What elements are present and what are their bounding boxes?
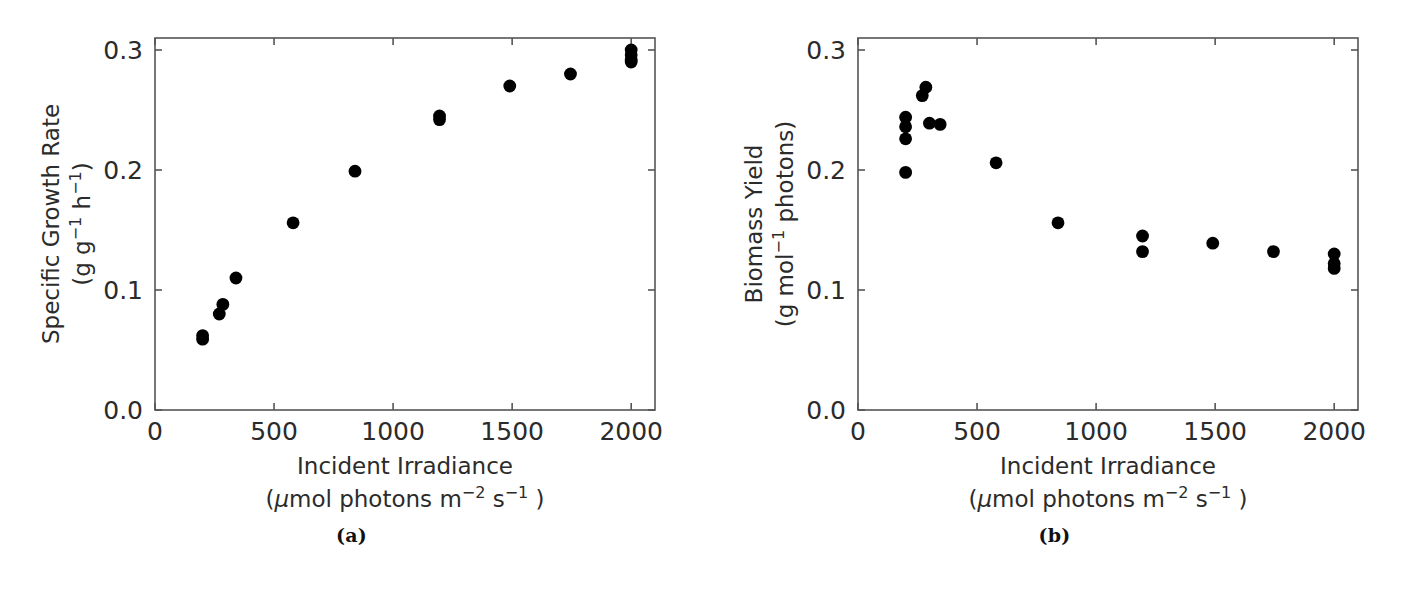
y-tick-label: 0.1 (806, 276, 846, 305)
panel-b: 05001000150020000.00.10.20.3Incident Irr… (703, 0, 1406, 594)
data-point (899, 166, 912, 179)
data-point (230, 272, 243, 285)
scatter-plot-b: 05001000150020000.00.10.20.3Incident Irr… (703, 0, 1406, 520)
x-axis-title-line1: Incident Irradiance (297, 453, 513, 479)
y-tick-label: 0.3 (806, 36, 846, 65)
data-point-group (899, 81, 1340, 275)
data-point (433, 113, 446, 126)
data-point (625, 56, 638, 69)
y-tick-label: 0.0 (806, 396, 846, 425)
data-point (1267, 245, 1280, 258)
scatter-plot-a: 05001000150020000.00.10.20.3Incident Irr… (0, 0, 703, 520)
subcaption-b: (b) (703, 524, 1406, 546)
data-point (1052, 216, 1065, 229)
panel-a: 05001000150020000.00.10.20.3Incident Irr… (0, 0, 703, 594)
x-tick-label: 1500 (1183, 417, 1247, 446)
y-axis-title-line2: (g g−1 h−1) (66, 162, 95, 286)
data-point (1206, 237, 1219, 250)
data-point (1136, 230, 1149, 243)
x-tick-label: 0 (147, 417, 163, 446)
data-point (564, 68, 577, 81)
x-tick-label: 1000 (1064, 417, 1128, 446)
data-point (934, 118, 947, 131)
y-tick-label: 0.3 (103, 36, 143, 65)
data-point (503, 80, 516, 93)
data-point-group (196, 44, 637, 346)
x-axis-title-line1: Incident Irradiance (1000, 453, 1216, 479)
data-point (1136, 245, 1149, 258)
data-point (1328, 262, 1341, 275)
data-point (196, 333, 209, 346)
x-tick-label: 0 (850, 417, 866, 446)
x-tick-label: 1500 (480, 417, 544, 446)
data-point (349, 165, 362, 178)
data-point (990, 156, 1003, 169)
data-point (899, 120, 912, 133)
x-tick-label: 2000 (599, 417, 663, 446)
y-tick-label: 0.2 (103, 156, 143, 185)
y-axis-title-line1: Biomass Yield (741, 145, 767, 304)
y-axis-title-line1: Specific Growth Rate (38, 104, 64, 344)
x-tick-label: 500 (250, 417, 298, 446)
subcaption-a: (a) (0, 524, 703, 546)
figure-two-panel-scatter: 05001000150020000.00.10.20.3Incident Irr… (0, 0, 1406, 594)
data-point (899, 132, 912, 145)
x-axis-title-line2: (μmol photons m−2 s−1 ) (265, 483, 544, 512)
y-tick-label: 0.1 (103, 276, 143, 305)
axes-frame (858, 38, 1358, 410)
x-axis-title-line2: (μmol photons m−2 s−1 ) (968, 483, 1247, 512)
y-tick-label: 0.2 (806, 156, 846, 185)
x-tick-label: 1000 (361, 417, 425, 446)
data-point (216, 298, 229, 311)
data-point (287, 216, 300, 229)
axes-frame (155, 38, 655, 410)
x-tick-label: 2000 (1302, 417, 1366, 446)
y-axis-title-line2: (g mol−1 photons) (769, 121, 798, 328)
data-point (919, 81, 932, 94)
x-tick-label: 500 (953, 417, 1001, 446)
y-tick-label: 0.0 (103, 396, 143, 425)
